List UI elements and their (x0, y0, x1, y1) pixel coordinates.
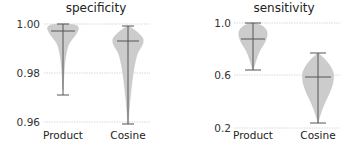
x-category-label: Product (43, 129, 83, 141)
specificity-panel: specificity 1.00 0.98 0.96 Product Cosin… (17, 1, 150, 141)
y-tick-label: 0.2 (214, 122, 231, 134)
x-category-label: Product (233, 129, 273, 141)
violin-product-sensitivity (239, 23, 267, 70)
y-tick-label: 0.96 (17, 116, 41, 128)
sensitivity-panel: sensitivity 1.0 0.6 0.2 Product Cosine (214, 1, 340, 141)
y-tick-label: 1.0 (214, 17, 231, 29)
x-category-label: Cosine (300, 129, 335, 141)
violin-cosine-specificity (113, 26, 143, 124)
specificity-title: specificity (66, 1, 126, 15)
violin-product-specificity (48, 24, 79, 95)
y-tick-label: 0.98 (17, 67, 40, 79)
chart-canvas: specificity 1.00 0.98 0.96 Product Cosin… (0, 0, 351, 149)
violin-cosine-sensitivity (302, 53, 333, 123)
y-tick-label: 0.6 (214, 69, 231, 81)
y-tick-label: 1.00 (17, 18, 40, 30)
x-category-label: Cosine (110, 129, 145, 141)
sensitivity-title: sensitivity (253, 1, 314, 15)
